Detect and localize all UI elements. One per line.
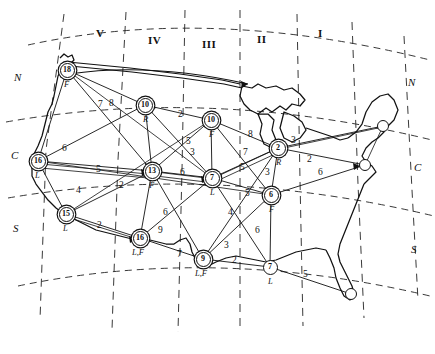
us-network-map-figure: V IV III II I N C S N C S 18 F 10 R 10 F… bbox=[0, 0, 435, 354]
edge-weight-9lf-6f: 3 bbox=[224, 241, 229, 251]
lake-superior bbox=[240, 84, 305, 114]
edge-weight-16lf-9lf: 7 bbox=[177, 250, 182, 260]
terminal-midatlantic[interactable] bbox=[359, 159, 371, 171]
edge-weight-2r-6f: 3 bbox=[265, 168, 270, 178]
edge-10f-13f bbox=[152, 120, 211, 171]
node-7-l-gulf[interactable]: 7 bbox=[263, 260, 278, 275]
zone-label-ii: II bbox=[257, 33, 267, 45]
edge-2r-mid bbox=[278, 148, 365, 165]
edge-16lf-9lf bbox=[140, 238, 203, 259]
node-10-r[interactable]: 10 bbox=[138, 98, 153, 113]
edge-weight-18-10r: 8 bbox=[109, 99, 114, 109]
zone-label-v: V bbox=[96, 27, 104, 39]
edge-weight-13f-7l: 6 bbox=[180, 168, 185, 178]
edge-10f-6f bbox=[211, 120, 271, 195]
node-10-f-label: F bbox=[209, 129, 214, 139]
node-9-lf[interactable]: 9 bbox=[196, 252, 211, 267]
edge-7l-7lb bbox=[212, 178, 270, 267]
node-10-f[interactable]: 10 bbox=[204, 113, 219, 128]
band-label-n-left: N bbox=[14, 71, 21, 83]
edge-weight-6f-7lb: 6 bbox=[255, 226, 260, 236]
edge-weight-10f-13f: 7 bbox=[243, 148, 248, 158]
arrowed-corridors bbox=[41, 70, 378, 238]
band-label-c-left: C bbox=[11, 149, 18, 161]
edge-weight-18-13f: 7 bbox=[98, 100, 103, 110]
node-9-lf-label: L,F bbox=[195, 268, 207, 278]
band-label-c-right: C bbox=[414, 161, 421, 173]
edge-15l-16lf bbox=[66, 214, 140, 238]
node-7-l-label: L bbox=[210, 187, 215, 197]
edge-weight-6f-mid: 6 bbox=[318, 168, 323, 178]
node-7-l-gulf-label: L bbox=[268, 276, 273, 286]
edge-weight-10f-2r: 8 bbox=[248, 130, 253, 140]
node-13-f[interactable]: 13 bbox=[145, 164, 160, 179]
edge-18-7l bbox=[67, 70, 212, 178]
edge-6f-7l bbox=[212, 178, 271, 195]
edge-weight-9lf-7lb: 2 bbox=[232, 256, 237, 266]
edge-weight-10f-7l: 3 bbox=[190, 148, 195, 158]
band-label-s-right: S bbox=[411, 243, 417, 255]
node-13-f-label: F bbox=[149, 180, 154, 190]
edge-15l-10f bbox=[66, 120, 211, 214]
zone-label-iii: III bbox=[202, 38, 216, 50]
edge-7lb-fl bbox=[270, 267, 351, 294]
east-coast-florida bbox=[326, 184, 364, 300]
band-label-n-right: N bbox=[408, 76, 415, 88]
northern-border-2 bbox=[70, 66, 242, 88]
edge-weight-7l-2r: 5 bbox=[240, 163, 245, 173]
corridor-2r-ne-b bbox=[284, 128, 378, 148]
edge-18-10r bbox=[67, 70, 145, 105]
node-6-f-label: F bbox=[269, 204, 274, 214]
edge-weight-15l-13f: 2 bbox=[119, 181, 124, 191]
edge-weight-2r-ne: 3 bbox=[291, 136, 296, 146]
edge-18-13f bbox=[67, 70, 152, 171]
node-15-l-label: L bbox=[63, 223, 68, 233]
terminal-northeast[interactable] bbox=[377, 120, 389, 132]
node-6-f[interactable]: 6 bbox=[264, 188, 279, 203]
edge-weight-16l-13f: 5 bbox=[96, 165, 101, 175]
lake-ontario-edge bbox=[306, 128, 348, 140]
edge-weight-7l-7lb: 4 bbox=[228, 208, 233, 218]
node-10-r-label: R bbox=[143, 114, 148, 124]
edge-10r-16l bbox=[38, 105, 145, 161]
edge-weight-2r-mid: 2 bbox=[307, 155, 312, 165]
edge-10f-2r bbox=[211, 120, 278, 148]
node-16-l[interactable]: 16 bbox=[31, 154, 46, 169]
edge-weight-7l-6f: 5 bbox=[245, 189, 250, 199]
node-15-l[interactable]: 15 bbox=[59, 207, 74, 222]
node-2-r-label: R bbox=[276, 157, 281, 167]
zone-label-iv: IV bbox=[148, 34, 161, 46]
edge-weight-10r-13f: 5 bbox=[186, 137, 191, 147]
node-7-l[interactable]: 7 bbox=[205, 171, 220, 186]
edge-weight-7lb-fl: 5 bbox=[303, 270, 308, 280]
zone-label-i: I bbox=[318, 27, 323, 39]
node-2-r[interactable]: 2 bbox=[271, 141, 286, 156]
edge-weight-13f-16lf: 6 bbox=[163, 208, 168, 218]
edge-weight-10r-10f: 2 bbox=[178, 110, 183, 120]
node-18[interactable]: 18 bbox=[60, 63, 75, 78]
node-16-l-label: L bbox=[35, 170, 40, 180]
lat-line-top bbox=[28, 28, 430, 60]
edge-18-15l bbox=[66, 70, 67, 214]
edge-weight-16l-18: 6 bbox=[62, 144, 67, 154]
node-16-lf[interactable]: 16 bbox=[133, 231, 148, 246]
northern-border bbox=[68, 62, 240, 84]
terminal-florida[interactable] bbox=[345, 288, 357, 300]
edge-weight-16l-15l: 4 bbox=[76, 186, 81, 196]
lat-line-lower bbox=[18, 268, 430, 296]
corridor-15l-16lf-b bbox=[70, 218, 134, 238]
band-label-s-left: S bbox=[13, 222, 19, 234]
edge-weight-15l-16lf: 2 bbox=[97, 221, 102, 231]
edge-6f-9lf bbox=[203, 195, 271, 259]
node-18-label: F bbox=[64, 79, 69, 89]
edge-weight-16lf-7l: 9 bbox=[158, 226, 163, 236]
node-16-lf-label: L,F bbox=[132, 247, 144, 257]
